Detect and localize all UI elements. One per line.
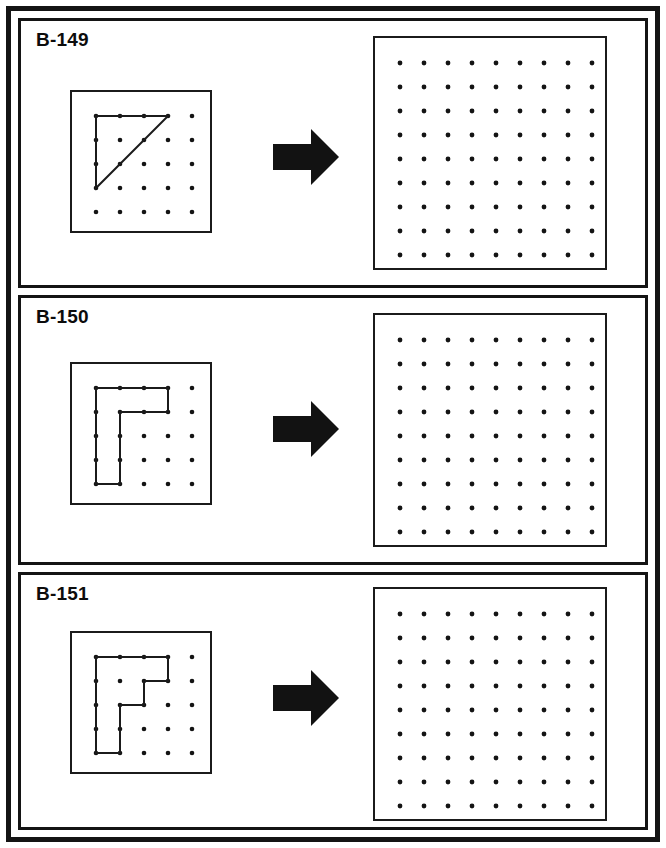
grid-dot — [590, 61, 595, 66]
grid-dot — [166, 482, 171, 487]
grid-dot — [142, 434, 147, 439]
grid-dot — [494, 205, 499, 210]
grid-dot — [542, 636, 547, 641]
grid-dot — [422, 434, 427, 439]
source-figure-b-150 — [72, 364, 210, 503]
grid-dot — [398, 636, 403, 641]
grid-dot — [470, 410, 475, 415]
grid-dot — [518, 157, 523, 162]
grid-dot — [542, 386, 547, 391]
grid-dot — [190, 458, 195, 463]
grid-dot — [166, 162, 171, 167]
answer-geoboard-b-151[interactable] — [373, 587, 607, 821]
source-geoboard-b-150[interactable] — [70, 362, 212, 505]
grid-dot — [398, 362, 403, 367]
grid-dot — [518, 181, 523, 186]
grid-dot — [422, 362, 427, 367]
grid-dot — [422, 157, 427, 162]
grid-dot — [446, 530, 451, 535]
grid-dot — [518, 386, 523, 391]
grid-dot — [494, 660, 499, 665]
grid-dot — [542, 458, 547, 463]
grid-dot — [494, 732, 499, 737]
grid-dot — [142, 162, 147, 167]
source-geoboard-b-151[interactable] — [70, 631, 212, 774]
grid-dot — [566, 530, 571, 535]
grid-dot — [422, 205, 427, 210]
answer-grid-b-151 — [375, 589, 605, 819]
grid-dot — [494, 636, 499, 641]
grid-dot — [590, 636, 595, 641]
grid-dot — [190, 114, 195, 119]
grid-dot — [422, 410, 427, 415]
grid-dot — [542, 157, 547, 162]
right-arrow-icon-b-151 — [271, 667, 341, 729]
grid-dot — [446, 85, 451, 90]
grid-dot — [518, 338, 523, 343]
grid-dot — [590, 708, 595, 713]
grid-dot — [542, 85, 547, 90]
grid-dot — [190, 751, 195, 756]
grid-dot — [398, 660, 403, 665]
grid-dot — [518, 229, 523, 234]
grid-dot — [494, 85, 499, 90]
grid-dot — [542, 482, 547, 487]
grid-dot — [566, 612, 571, 617]
grid-dot — [518, 804, 523, 809]
grid-dot — [518, 530, 523, 535]
answer-geoboard-b-149[interactable] — [373, 36, 607, 270]
grid-dot — [166, 138, 171, 143]
grid-dot — [470, 780, 475, 785]
grid-dot — [542, 804, 547, 809]
grid-dot — [518, 660, 523, 665]
grid-dot — [590, 253, 595, 258]
answer-geoboard-b-150[interactable] — [373, 313, 607, 547]
grid-dot — [590, 684, 595, 689]
grid-dot — [118, 210, 123, 215]
grid-dot — [398, 482, 403, 487]
grid-dot — [190, 655, 195, 660]
grid-dot — [422, 804, 427, 809]
grid-dot — [542, 205, 547, 210]
grid-dot — [422, 660, 427, 665]
panel-b-151: B-151 — [18, 572, 648, 830]
grid-dot — [590, 338, 595, 343]
right-arrow-icon-b-149 — [271, 126, 341, 188]
grid-dot — [470, 458, 475, 463]
grid-dot — [190, 703, 195, 708]
panel-stack: B-149 B-150 — [18, 18, 648, 830]
grid-dot — [470, 482, 475, 487]
grid-dot — [494, 530, 499, 535]
grid-dot — [190, 679, 195, 684]
grid-dot — [398, 109, 403, 114]
grid-dot — [398, 708, 403, 713]
source-geoboard-b-149[interactable] — [70, 90, 212, 233]
grid-dot — [190, 434, 195, 439]
grid-dot — [566, 732, 571, 737]
grid-dot — [422, 85, 427, 90]
grid-dot — [518, 756, 523, 761]
grid-dot — [542, 708, 547, 713]
grid-dot — [590, 362, 595, 367]
grid-dot — [494, 133, 499, 138]
grid-dot — [518, 362, 523, 367]
grid-dot — [446, 506, 451, 511]
grid-dot — [470, 756, 475, 761]
grid-dot — [542, 133, 547, 138]
grid-dot — [566, 506, 571, 511]
figure-outline — [96, 657, 168, 753]
grid-dot — [446, 410, 451, 415]
grid-dot — [446, 157, 451, 162]
panel-label-b-150: B-150 — [36, 306, 89, 328]
grid-dot — [142, 751, 147, 756]
grid-dot — [494, 410, 499, 415]
grid-dot — [470, 612, 475, 617]
grid-dot — [470, 636, 475, 641]
grid-dot — [518, 708, 523, 713]
grid-dot — [566, 338, 571, 343]
grid-dot — [566, 61, 571, 66]
grid-dot — [422, 338, 427, 343]
grid-dot — [566, 85, 571, 90]
grid-dot — [590, 732, 595, 737]
grid-dot — [446, 205, 451, 210]
